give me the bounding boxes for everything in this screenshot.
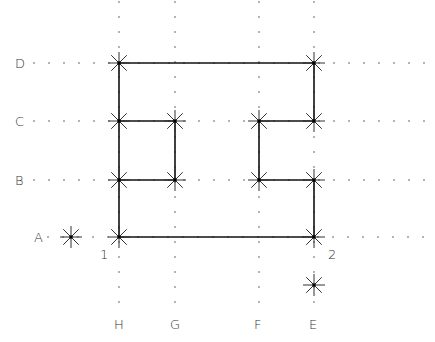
grid-dot (258, 1, 260, 3)
grid-dot (174, 211, 176, 213)
grid-dot (118, 271, 120, 273)
asterisk-marker-icon (108, 226, 130, 248)
grid-dot (118, 46, 120, 48)
asterisk-marker-icon (60, 226, 82, 248)
column-label-e: E (309, 318, 317, 331)
asterisk-marker-icon (248, 169, 270, 191)
grid-dot (332, 236, 334, 238)
grid-dot (33, 62, 35, 64)
grid-dot (78, 62, 80, 64)
grid-dot (348, 120, 350, 122)
grid-dot (48, 62, 50, 64)
asterisk-marker-icon (248, 110, 270, 132)
grid-dot (174, 16, 176, 18)
grid-dot (378, 120, 380, 122)
grid-dot (92, 236, 94, 238)
asterisk-marker-icon (108, 110, 130, 132)
grid-dot (333, 179, 335, 181)
grid-dot (258, 211, 260, 213)
grid-dot (377, 236, 379, 238)
asterisk-marker-icon (108, 52, 130, 74)
column-label-h: H (114, 318, 124, 331)
grid-diagram (0, 0, 435, 342)
grid-dot (258, 106, 260, 108)
grid-dot (423, 120, 425, 122)
grid-dot (258, 46, 260, 48)
grid-dot (348, 179, 350, 181)
grid-dot (378, 62, 380, 64)
grid-dot (378, 179, 380, 181)
grid-dot (313, 256, 315, 258)
solid-path-segments (119, 63, 314, 237)
grid-dot (258, 16, 260, 18)
grid-dot (313, 271, 315, 273)
grid-dot (118, 16, 120, 18)
grid-dot (393, 62, 395, 64)
grid-dot (93, 62, 95, 64)
grid-dot (48, 120, 50, 122)
dotted-grid-lines (33, 1, 425, 303)
grid-dot (392, 236, 394, 238)
grid-dot (422, 236, 424, 238)
grid-dot (313, 166, 315, 168)
grid-dot (313, 151, 315, 153)
grid-dot (423, 179, 425, 181)
grid-dot (393, 120, 395, 122)
grid-dot (174, 196, 176, 198)
grid-dot (258, 286, 260, 288)
grid-dot (33, 120, 35, 122)
grid-dot (313, 136, 315, 138)
grid-dot (333, 62, 335, 64)
grid-dot (63, 179, 65, 181)
row-label-a: A (34, 231, 43, 244)
grid-dot (258, 76, 260, 78)
grid-dot (333, 120, 335, 122)
grid-dot (258, 271, 260, 273)
grid-dot (393, 179, 395, 181)
grid-dot (118, 1, 120, 3)
asterisk-marker-icon (303, 274, 325, 296)
grid-dot (93, 179, 95, 181)
grid-dot (362, 236, 364, 238)
grid-dot (423, 62, 425, 64)
grid-dot (407, 236, 409, 238)
grid-dot (198, 179, 200, 181)
grid-dot (363, 62, 365, 64)
grid-dot (258, 301, 260, 303)
row-label-d: D (15, 57, 25, 70)
grid-dot (118, 286, 120, 288)
asterisk-marker-icon (108, 169, 130, 191)
grid-dot (174, 226, 176, 228)
grid-dot (174, 286, 176, 288)
grid-dot (118, 31, 120, 33)
column-label-g: G (170, 318, 180, 331)
grid-dot (313, 301, 315, 303)
grid-dot (258, 196, 260, 198)
grid-dot (228, 179, 230, 181)
grid-dot (93, 120, 95, 122)
point-label-2: 2 (328, 248, 336, 261)
grid-dot (48, 179, 50, 181)
grid-dot (363, 179, 365, 181)
grid-dot (198, 120, 200, 122)
grid-dot (363, 120, 365, 122)
grid-dot (258, 226, 260, 228)
grid-dot (33, 179, 35, 181)
grid-dot (313, 31, 315, 33)
grid-dot (118, 256, 120, 258)
grid-dot (118, 301, 120, 303)
grid-dot (213, 179, 215, 181)
asterisk-marker-icon (303, 110, 325, 132)
grid-dot (174, 271, 176, 273)
grid-dot (313, 16, 315, 18)
grid-dot (63, 120, 65, 122)
grid-dot (408, 120, 410, 122)
grid-dot (174, 256, 176, 258)
grid-dot (243, 120, 245, 122)
grid-dot (258, 91, 260, 93)
asterisk-marker-icon (303, 52, 325, 74)
grid-dot (174, 301, 176, 303)
grid-dot (174, 46, 176, 48)
grid-dot (174, 1, 176, 3)
grid-dot (258, 241, 260, 243)
